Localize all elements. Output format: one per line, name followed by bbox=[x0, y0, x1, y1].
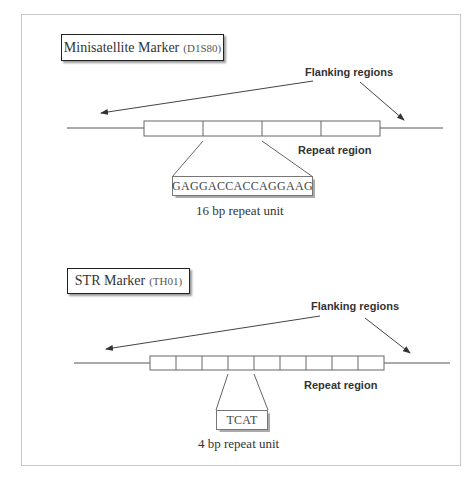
str-repeat-label: Repeat region bbox=[304, 379, 377, 391]
str-sequence-box: TCAT bbox=[216, 410, 268, 430]
minisatellite-title-box: Minisatellite Marker (D1S80) bbox=[61, 34, 224, 61]
str-title: STR Marker bbox=[75, 273, 145, 289]
minisatellite-flanking-arrows bbox=[101, 81, 404, 120]
minisatellite-repeat-block bbox=[144, 121, 380, 136]
minisatellite-flanking-label: Flanking regions bbox=[305, 66, 393, 78]
minisatellite-title: Minisatellite Marker bbox=[64, 40, 179, 56]
str-unit-label: 4 bp repeat unit bbox=[198, 436, 279, 452]
str-title-box: STR Marker (TH01) bbox=[67, 268, 190, 294]
minisatellite-unit-label: 16 bp repeat unit bbox=[196, 203, 284, 219]
minisatellite-repeat-label: Repeat region bbox=[298, 144, 371, 156]
str-flanking-arrows bbox=[106, 316, 410, 353]
minisatellite-marker-id: (D1S80) bbox=[183, 42, 221, 54]
str-flanking-label: Flanking regions bbox=[311, 300, 399, 312]
minisatellite-sequence-box: GAGGACCACCAGGAAG bbox=[172, 176, 313, 196]
minisatellite-callout-lines bbox=[172, 141, 313, 177]
str-marker-id: (TH01) bbox=[149, 275, 182, 287]
str-repeat-block bbox=[150, 356, 384, 370]
str-callout-lines bbox=[216, 374, 268, 410]
